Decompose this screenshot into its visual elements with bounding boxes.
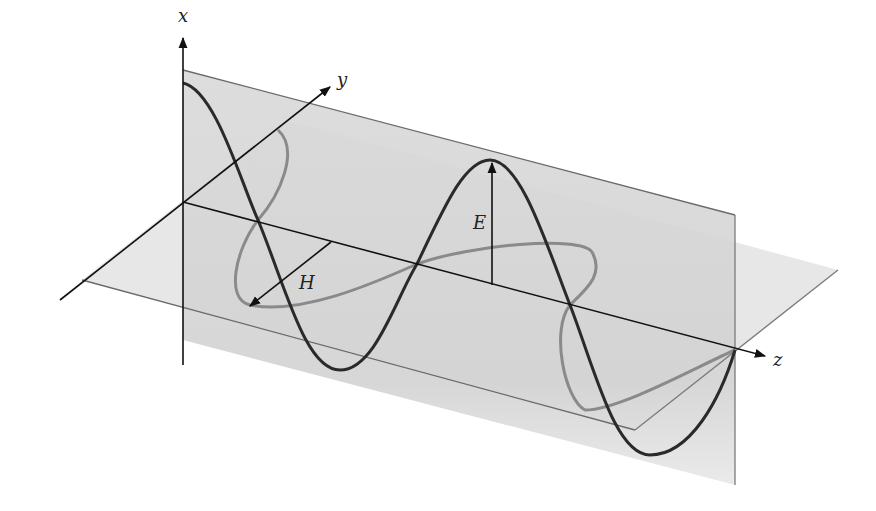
z-axis-label: z	[772, 349, 783, 370]
e-vector-label: E	[472, 212, 486, 233]
h-vector-label: H	[298, 272, 315, 293]
x-axis-label: x	[178, 5, 188, 26]
y-axis-label: y	[336, 69, 348, 90]
vertical-plane	[183, 70, 735, 485]
em-wave-diagram: x y z E H	[0, 0, 876, 511]
